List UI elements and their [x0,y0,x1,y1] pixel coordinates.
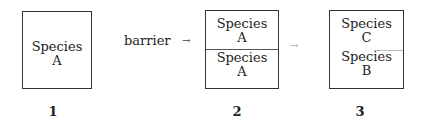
stage-3-top-cell: Species C [330,17,403,45]
species-label: Species [206,17,278,31]
stage-3-bottom-cell: Species B [330,50,403,78]
species-label: Species [206,51,278,65]
stage-1-species-cell: Species A [23,40,91,68]
stage-2-top-cell: Species A [206,17,278,45]
stage-3-number: 3 [355,104,364,119]
stage-1-box: Species A [22,11,92,89]
stage-2-bottom-cell: Species A [206,51,278,79]
species-letter: A [23,54,91,68]
arrow-icon: → [182,35,190,46]
barrier-label: barrier [124,33,171,48]
stage-3-box: Species C Species B [329,10,404,89]
species-letter: A [206,31,278,45]
species-letter: B [330,64,403,78]
species-label: Species [330,17,403,31]
species-letter: A [206,65,278,79]
species-letter: C [330,31,403,45]
stage-2-box: Species A Species A [205,10,279,89]
stage-2-number: 2 [232,104,241,119]
stage-1-number: 1 [48,104,57,119]
species-label: Species [23,40,91,54]
arrow-icon: → [290,40,298,51]
species-label: Species [330,50,403,64]
